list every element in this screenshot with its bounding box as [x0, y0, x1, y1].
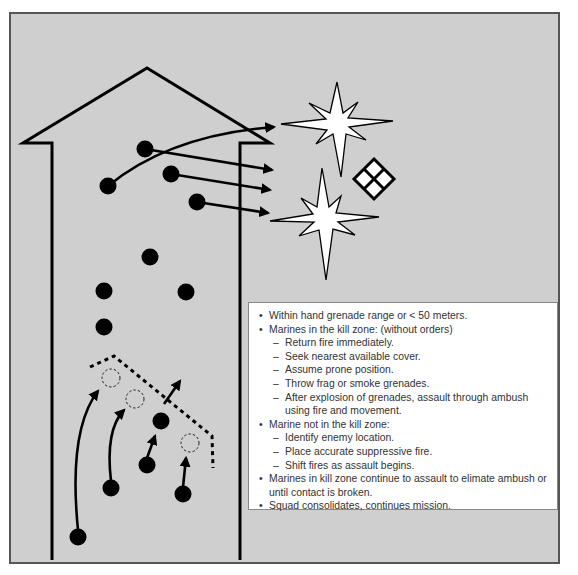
bullet-item: Squad consolidates, continues mission. [257, 499, 549, 513]
sub-bullet-item: Seek nearest available cover. [257, 350, 549, 364]
sub-bullet-item: After explosion of grenades, assault thr… [257, 391, 549, 418]
bullet-item: Within hand grenade range or < 50 meters… [257, 309, 549, 323]
instructions-textbox: Within hand grenade range or < 50 meters… [248, 302, 558, 510]
sub-bullet-item: Shift fires as assault begins. [257, 459, 549, 473]
sub-bullet-item: Identify enemy location. [257, 431, 549, 445]
assault-arrows [76, 381, 187, 530]
assault-positions [102, 369, 199, 452]
sub-bullet-item: Place accurate suppressive fire. [257, 445, 549, 459]
marine-dots [70, 141, 206, 546]
bullet-item: Marine not in the kill zone: [257, 418, 549, 432]
bullet-item: Marines in the kill zone: (without order… [257, 323, 549, 337]
sub-bullet-item: Assume prone position. [257, 363, 549, 377]
bullet-item: Marines in kill zone continue to assault… [257, 472, 549, 499]
sub-bullet-item: Return fire immediately. [257, 336, 549, 350]
enemy-diamond-icon [354, 159, 394, 199]
sub-bullet-item: Throw frag or smoke grenades. [257, 377, 549, 391]
